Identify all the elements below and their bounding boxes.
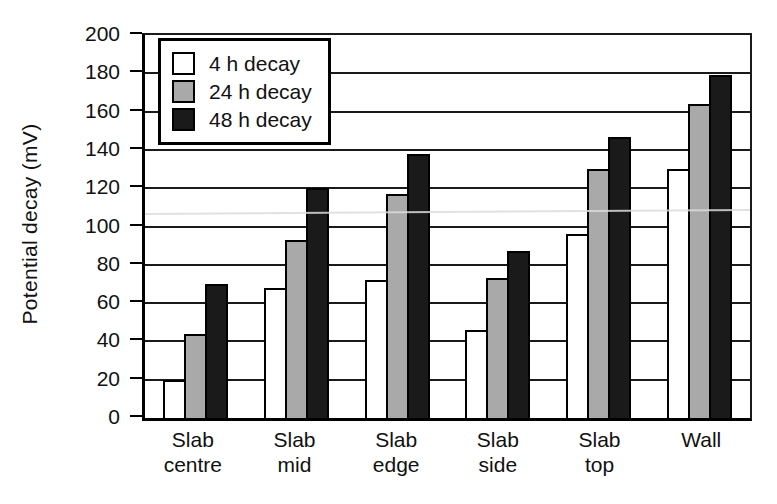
- legend-item-4h-decay: 4 h decay: [172, 52, 312, 75]
- figure-root: Potential decay (mV) 0204060801001201401…: [0, 0, 777, 504]
- y-tick-label-0: 0: [108, 406, 120, 427]
- bar-24-h-decay: [184, 334, 207, 418]
- bar-24-h-decay: [285, 240, 308, 418]
- y-tick-mark-180: [130, 70, 142, 72]
- y-tick-mark-60: [130, 300, 142, 302]
- y-tick-mark-20: [130, 377, 142, 379]
- legend-label-24h-decay: 24 h decay: [209, 81, 312, 102]
- y-tick-mark-200: [130, 32, 142, 34]
- x-category-label-slab-side: Slab side: [447, 427, 549, 477]
- bar-48-h-decay: [608, 137, 631, 419]
- bar-24-h-decay: [587, 169, 610, 418]
- bar-24-h-decay: [386, 194, 409, 418]
- x-category-label-slab-edge: Slab edge: [345, 427, 447, 477]
- legend-swatch-4h-decay: [172, 52, 195, 75]
- y-tick-label-60: 60: [97, 291, 120, 312]
- y-tick-mark-100: [130, 224, 142, 226]
- bar-4-h-decay: [667, 169, 690, 418]
- y-tick-mark-160: [130, 109, 142, 111]
- y-tick-label-180: 180: [85, 61, 120, 82]
- legend-label-4h-decay: 4 h decay: [209, 53, 300, 74]
- bar-48-h-decay: [507, 251, 530, 418]
- x-category-label-slab-centre: Slab centre: [142, 427, 244, 477]
- x-category-label-wall: Wall: [650, 427, 752, 477]
- y-tick-label-120: 120: [85, 176, 120, 197]
- y-tick-mark-40: [130, 338, 142, 340]
- y-axis: 020406080100120140160180200: [0, 33, 142, 416]
- bar-4-h-decay: [264, 288, 287, 418]
- legend-swatch-48h-decay: [172, 108, 195, 131]
- bar-48-h-decay: [306, 188, 329, 418]
- bar-48-h-decay: [709, 75, 732, 418]
- y-tick-label-100: 100: [85, 214, 120, 235]
- bar-4-h-decay: [566, 234, 589, 418]
- bar-24-h-decay: [486, 278, 509, 418]
- y-tick-label-160: 160: [85, 99, 120, 120]
- x-category-label-slab-mid: Slab mid: [244, 427, 346, 477]
- y-tick-label-140: 140: [85, 137, 120, 158]
- bar-48-h-decay: [205, 284, 228, 418]
- bar-48-h-decay: [407, 154, 430, 418]
- x-category-label-slab-top: Slab top: [549, 427, 651, 477]
- bar-group-slab-top: [548, 35, 649, 418]
- bar-group-slab-edge: [347, 35, 448, 418]
- x-axis-labels: Slab centreSlab midSlab edgeSlab sideSla…: [142, 427, 752, 477]
- bar-group-slab-side: [447, 35, 548, 418]
- bar-group-wall: [649, 35, 750, 418]
- y-tick-mark-0: [130, 415, 142, 417]
- legend: 4 h decay 24 h decay 48 h decay: [158, 38, 331, 145]
- y-tick-mark-120: [130, 185, 142, 187]
- y-tick-label-20: 20: [97, 367, 120, 388]
- y-tick-label-40: 40: [97, 329, 120, 350]
- bar-24-h-decay: [688, 104, 711, 418]
- legend-item-24h-decay: 24 h decay: [172, 80, 312, 103]
- plot-area: 4 h decay 24 h decay 48 h decay: [142, 33, 752, 421]
- legend-swatch-24h-decay: [172, 80, 195, 103]
- bar-4-h-decay: [163, 380, 186, 418]
- y-tick-label-200: 200: [85, 23, 120, 44]
- legend-item-48h-decay: 48 h decay: [172, 108, 312, 131]
- y-tick-label-80: 80: [97, 252, 120, 273]
- y-tick-mark-140: [130, 147, 142, 149]
- legend-label-48h-decay: 48 h decay: [209, 109, 312, 130]
- y-tick-mark-80: [130, 262, 142, 264]
- bar-4-h-decay: [465, 330, 488, 418]
- bar-4-h-decay: [365, 280, 388, 418]
